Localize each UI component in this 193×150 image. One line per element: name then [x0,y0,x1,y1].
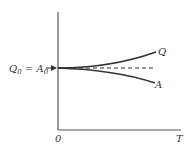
a-curve [58,68,155,83]
diagram-canvas: Q0 = A0 Q A 0 T [0,0,193,150]
a-curve-label: A [154,79,162,90]
q-curve [58,52,156,68]
origin-label: 0 [55,133,62,144]
q-curve-label: Q [158,46,166,57]
intercept-label: Q0 = A0 [9,63,49,76]
x-axis-label: T [176,133,184,144]
